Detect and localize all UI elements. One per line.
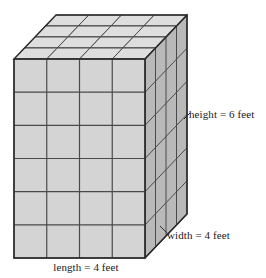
height-dimension-label: height = 6 feet <box>189 108 254 120</box>
top-face-depth-row-1 <box>14 48 156 59</box>
width-dimension-label: width = 4 feet <box>167 229 230 241</box>
figure-root: height = 6 feet width = 4 feet length = … <box>0 0 266 278</box>
length-dimension-label: length = 4 feet <box>30 261 142 273</box>
front-face-group <box>14 59 145 258</box>
